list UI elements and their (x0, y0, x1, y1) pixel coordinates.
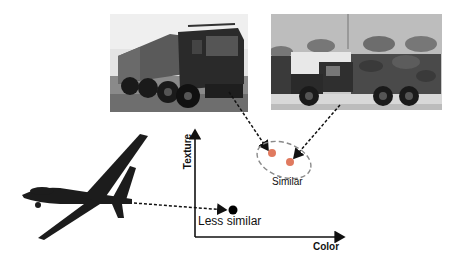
less-similar-label: Less similar (198, 214, 261, 228)
uav-drone-image (22, 134, 148, 240)
arrow-right-truck-to-point (294, 105, 340, 158)
point-right-truck (286, 158, 294, 166)
x-axis-label: Color (313, 241, 339, 252)
y-axis-label: Texture (182, 134, 193, 169)
arrow-left-truck-to-point (229, 92, 268, 150)
point-left-truck (268, 149, 276, 157)
arrow-drone-to-point (134, 203, 226, 210)
similar-label: Similar (272, 176, 303, 187)
